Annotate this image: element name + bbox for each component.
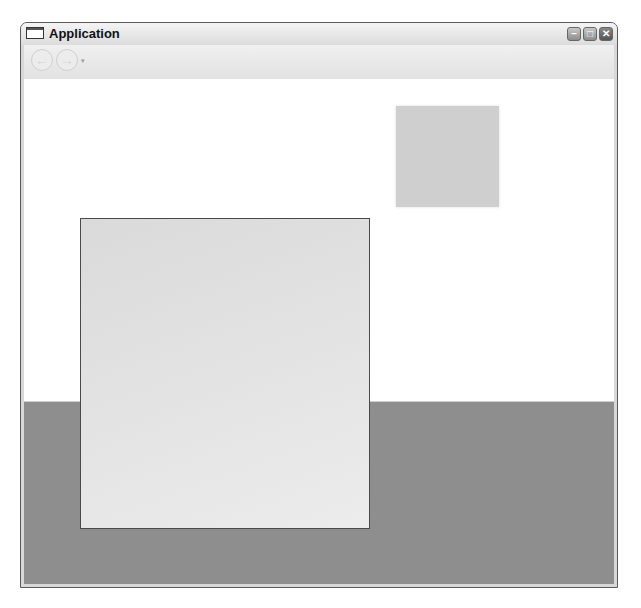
window-title: Application	[49, 26, 120, 41]
large-square-panel	[80, 218, 370, 529]
small-square-panel	[396, 106, 499, 207]
maximize-button[interactable]: □	[583, 27, 597, 41]
forward-arrow-icon: →	[60, 52, 74, 68]
window-icon	[26, 27, 44, 39]
navigation-bar: ← → ▾	[24, 45, 614, 79]
content-area	[24, 79, 614, 584]
back-arrow-icon: ←	[35, 52, 49, 68]
title-bar[interactable]: Application – □ ✕	[21, 23, 617, 45]
forward-button[interactable]: →	[56, 49, 78, 71]
back-button[interactable]: ←	[31, 49, 53, 71]
application-window: Application – □ ✕ ← → ▾	[20, 22, 618, 588]
minimize-button[interactable]: –	[567, 27, 581, 41]
close-button[interactable]: ✕	[599, 27, 613, 41]
window-controls: – □ ✕	[567, 27, 613, 41]
history-dropdown-icon[interactable]: ▾	[81, 57, 85, 65]
